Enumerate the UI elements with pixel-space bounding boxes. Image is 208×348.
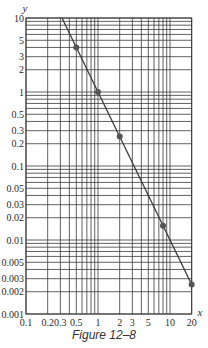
- x-tick-label: 10: [165, 317, 175, 328]
- y-tick-label: 2: [19, 64, 24, 75]
- y-tick-label: 0.5: [12, 109, 25, 120]
- x-tick-label: 5: [146, 317, 151, 328]
- grid-lines: [26, 18, 192, 314]
- y-tick-label: 1: [19, 87, 24, 98]
- x-tick-labels: 0.10.20.30.512351020: [20, 317, 197, 328]
- y-tick-label: 0.005: [2, 257, 25, 268]
- x-tick-label: 0.5: [70, 317, 83, 328]
- data-point: [160, 223, 166, 229]
- data-point: [189, 282, 195, 288]
- y-tick-label: 0.2: [12, 138, 25, 149]
- data-point: [95, 89, 101, 95]
- fitted-line: [62, 18, 192, 285]
- x-axis-label: x: [197, 306, 203, 318]
- x-tick-label: 0.3: [54, 317, 67, 328]
- y-tick-label: 5: [19, 35, 24, 46]
- x-tick-label: 0.2: [41, 317, 54, 328]
- x-tick-label: 20: [187, 317, 197, 328]
- y-axis-label: y: [22, 2, 28, 14]
- y-tick-labels: 1053210.50.30.20.10.050.030.020.010.0050…: [2, 13, 25, 320]
- y-tick-label: 0.02: [7, 212, 25, 223]
- log-log-chart: 1053210.50.30.20.10.050.030.020.010.0050…: [0, 0, 208, 348]
- y-tick-label: 0.3: [12, 125, 25, 136]
- data-point: [117, 134, 123, 140]
- x-tick-label: 0.1: [20, 317, 33, 328]
- y-tick-label: 0.01: [7, 235, 25, 246]
- y-tick-label: 3: [19, 51, 24, 62]
- x-tick-label: 3: [130, 317, 135, 328]
- x-tick-label: 2: [117, 317, 122, 328]
- y-tick-label: 0.002: [2, 286, 25, 297]
- y-tick-label: 0.03: [7, 199, 25, 210]
- y-tick-label: 0.1: [12, 161, 25, 172]
- data-point: [73, 44, 79, 50]
- figure-caption: Figure 12–8: [0, 328, 208, 342]
- x-tick-label: 1: [96, 317, 101, 328]
- y-tick-label: 10: [14, 13, 24, 24]
- y-tick-label: 0.05: [7, 183, 25, 194]
- y-tick-label: 0.003: [2, 273, 25, 284]
